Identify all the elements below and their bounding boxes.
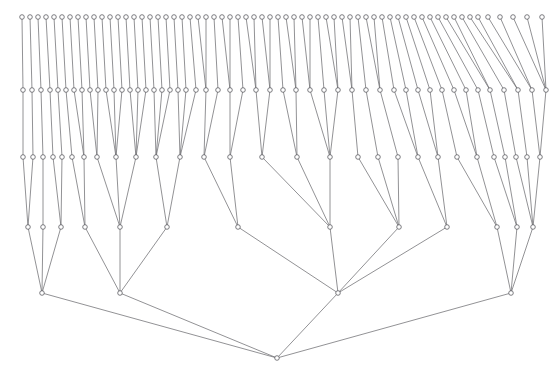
tree-node[interactable] [168, 88, 173, 93]
tree-node[interactable] [124, 15, 129, 20]
tree-node[interactable] [60, 155, 65, 160]
tree-node[interactable] [300, 15, 305, 20]
tree-node[interactable] [202, 155, 207, 160]
tree-node[interactable] [268, 88, 273, 93]
tree-node[interactable] [244, 15, 249, 20]
tree-node[interactable] [531, 225, 536, 230]
tree-node[interactable] [436, 15, 441, 20]
tree-node[interactable] [70, 155, 75, 160]
tree-node[interactable] [118, 291, 123, 296]
tree-node[interactable] [336, 291, 341, 296]
tree-node[interactable] [538, 155, 543, 160]
tree-node[interactable] [376, 155, 381, 160]
tree-node[interactable] [378, 88, 383, 93]
tree-node[interactable] [204, 88, 209, 93]
tree-node[interactable] [156, 15, 161, 20]
tree-node[interactable] [41, 155, 46, 160]
tree-node[interactable] [511, 15, 516, 20]
tree-node[interactable] [120, 88, 125, 93]
tree-node[interactable] [84, 15, 89, 20]
tree-node[interactable] [144, 88, 149, 93]
tree-node[interactable] [188, 15, 193, 20]
tree-node[interactable] [136, 88, 141, 93]
tree-node[interactable] [516, 88, 521, 93]
tree-node[interactable] [112, 88, 117, 93]
tree-node[interactable] [44, 15, 49, 20]
tree-node[interactable] [114, 155, 119, 160]
tree-node[interactable] [51, 155, 56, 160]
tree-node[interactable] [80, 88, 85, 93]
tree-node[interactable] [268, 15, 273, 20]
tree-node[interactable] [372, 15, 377, 20]
tree-node[interactable] [178, 155, 183, 160]
tree-node[interactable] [292, 15, 297, 20]
tree-node[interactable] [118, 225, 123, 230]
tree-node[interactable] [184, 88, 189, 93]
tree-node[interactable] [36, 15, 41, 20]
tree-node[interactable] [308, 15, 313, 20]
tree-node[interactable] [236, 225, 241, 230]
tree-node[interactable] [164, 15, 169, 20]
tree-node[interactable] [445, 225, 450, 230]
tree-node[interactable] [350, 88, 355, 93]
tree-node[interactable] [148, 15, 153, 20]
tree-node[interactable] [64, 88, 69, 93]
tree-node[interactable] [154, 155, 159, 160]
tree-node[interactable] [476, 88, 481, 93]
tree-node[interactable] [104, 88, 109, 93]
tree-node[interactable] [20, 15, 25, 20]
tree-node[interactable] [236, 15, 241, 20]
tree-node[interactable] [96, 88, 101, 93]
tree-node[interactable] [294, 88, 299, 93]
tree-node[interactable] [48, 88, 53, 93]
tree-node[interactable] [356, 155, 361, 160]
tree-node[interactable] [420, 15, 425, 20]
tree-node[interactable] [444, 15, 449, 20]
tree-node[interactable] [228, 88, 233, 93]
tree-node[interactable] [514, 155, 519, 160]
tree-node[interactable] [100, 15, 105, 20]
tree-node[interactable] [324, 15, 329, 20]
tree-node[interactable] [216, 88, 221, 93]
tree-node[interactable] [56, 88, 61, 93]
tree-node[interactable] [228, 15, 233, 20]
tree-node[interactable] [440, 88, 445, 93]
tree-node[interactable] [404, 88, 409, 93]
tree-node[interactable] [295, 155, 300, 160]
tree-node[interactable] [316, 15, 321, 20]
tree-node[interactable] [281, 88, 286, 93]
tree-node[interactable] [176, 88, 181, 93]
tree-node[interactable] [396, 15, 401, 20]
tree-node[interactable] [392, 88, 397, 93]
tree-node[interactable] [460, 15, 465, 20]
tree-node[interactable] [540, 15, 545, 20]
tree-node[interactable] [134, 155, 139, 160]
tree-node[interactable] [475, 155, 480, 160]
tree-node[interactable] [254, 88, 259, 93]
tree-node[interactable] [328, 155, 333, 160]
tree-node[interactable] [39, 88, 44, 93]
tree-node[interactable] [530, 88, 535, 93]
tree-node[interactable] [41, 225, 46, 230]
tree-node[interactable] [486, 15, 491, 20]
tree-node[interactable] [72, 88, 77, 93]
tree-node[interactable] [525, 155, 530, 160]
tree-node[interactable] [31, 155, 36, 160]
tree-node[interactable] [416, 155, 421, 160]
tree-node[interactable] [228, 155, 233, 160]
tree-node[interactable] [380, 15, 385, 20]
tree-node[interactable] [28, 15, 33, 20]
tree-node[interactable] [204, 15, 209, 20]
tree-node[interactable] [464, 88, 469, 93]
tree-node[interactable] [40, 291, 45, 296]
tree-node[interactable] [356, 15, 361, 20]
tree-node[interactable] [152, 88, 157, 93]
tree-node[interactable] [340, 15, 345, 20]
tree-node[interactable] [308, 88, 313, 93]
tree-node[interactable] [332, 15, 337, 20]
tree-node[interactable] [525, 15, 530, 20]
tree-node[interactable] [52, 15, 57, 20]
tree-node[interactable] [180, 15, 185, 20]
tree-node[interactable] [83, 225, 88, 230]
tree-node[interactable] [260, 155, 265, 160]
